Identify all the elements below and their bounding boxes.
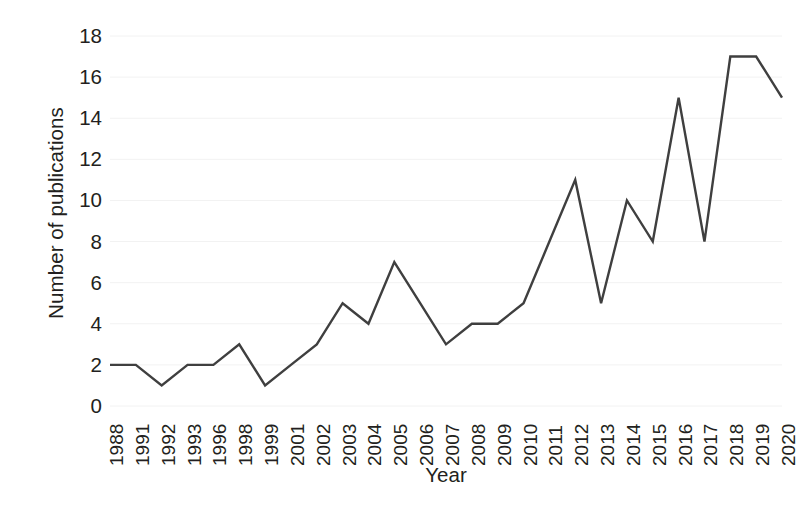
- x-tick-label: 1996: [210, 408, 230, 466]
- y-tick-label: 0: [54, 396, 102, 417]
- x-tick-label: 2005: [391, 408, 411, 466]
- y-tick-label: 4: [54, 314, 102, 335]
- x-tick-label: 2016: [676, 408, 696, 466]
- x-axis-title: Year: [110, 463, 782, 487]
- x-tick-label: 2020: [779, 408, 799, 466]
- x-tick-label: 2007: [443, 408, 463, 466]
- chart-svg: [110, 36, 782, 406]
- y-tick-label: 6: [54, 272, 102, 293]
- x-tick-label: 2010: [521, 408, 541, 466]
- x-tick-label: 2009: [495, 408, 515, 466]
- y-axis-tick-labels: 024681012141618: [54, 36, 102, 406]
- y-tick-label: 2: [54, 355, 102, 376]
- x-tick-label: 2002: [314, 408, 334, 466]
- x-axis-tick-labels: 1988199119921993199619981999200120022003…: [110, 408, 782, 466]
- x-tick-label: 1998: [236, 408, 256, 466]
- x-tick-label: 2012: [572, 408, 592, 466]
- x-tick-label: 2011: [546, 408, 566, 466]
- x-tick-label: 2006: [417, 408, 437, 466]
- y-tick-label: 10: [54, 190, 102, 211]
- plot-area: [110, 36, 782, 406]
- x-tick-label: 1999: [262, 408, 282, 466]
- x-tick-label: 1991: [133, 408, 153, 466]
- publications-per-year-line-chart: Number of publications 024681012141618 1…: [0, 0, 810, 510]
- x-tick-label: 2013: [598, 408, 618, 466]
- y-tick-label: 8: [54, 231, 102, 252]
- x-tick-label: 2001: [288, 408, 308, 466]
- x-tick-label: 2014: [624, 408, 644, 466]
- x-tick-label: 1988: [107, 408, 127, 466]
- x-tick-label: 2018: [727, 408, 747, 466]
- x-tick-label: 2003: [340, 408, 360, 466]
- y-tick-label: 18: [54, 26, 102, 47]
- y-tick-label: 16: [54, 67, 102, 88]
- y-tick-label: 14: [54, 108, 102, 129]
- gridlines: [110, 36, 782, 406]
- y-tick-label: 12: [54, 149, 102, 170]
- x-tick-label: 2015: [650, 408, 670, 466]
- x-tick-label: 2004: [365, 408, 385, 466]
- x-tick-label: 2017: [701, 408, 721, 466]
- x-tick-label: 1992: [159, 408, 179, 466]
- data-line-number-of-publications: [110, 57, 782, 386]
- x-tick-label: 2019: [753, 408, 773, 466]
- x-tick-label: 2008: [469, 408, 489, 466]
- x-tick-label: 1993: [185, 408, 205, 466]
